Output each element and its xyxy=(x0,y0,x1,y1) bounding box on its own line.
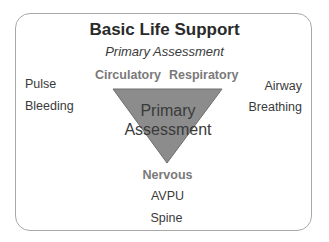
category-nervous: Nervous xyxy=(0,168,329,182)
triangle-label-primary: Primary xyxy=(113,102,223,120)
bottom-item-spine: Spine xyxy=(0,211,329,225)
bottom-item-avpu: AVPU xyxy=(0,189,329,203)
triangle-label-assessment: Assessment xyxy=(113,121,223,139)
